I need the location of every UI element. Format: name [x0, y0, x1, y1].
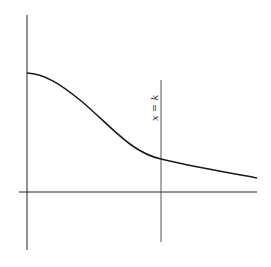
- decreasing-curve: [27, 73, 257, 178]
- line-label: x = k: [149, 95, 160, 121]
- diagram-canvas: x = k: [0, 0, 271, 267]
